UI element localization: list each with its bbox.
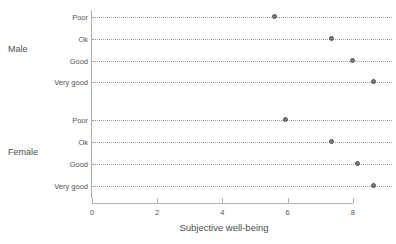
data-point (371, 79, 376, 84)
x-tick-label: 4 (220, 208, 224, 217)
x-tick-mark (157, 198, 158, 203)
x-tick-mark (288, 198, 289, 203)
x-axis-title: Subjective well-being (179, 222, 268, 233)
row-gridline (92, 61, 392, 62)
panel-label-female: Female (8, 147, 66, 157)
data-point (329, 36, 334, 41)
row-gridline (92, 82, 392, 83)
row-gridline (92, 142, 392, 143)
x-tick-label: 2 (155, 208, 159, 217)
data-point (371, 183, 376, 188)
data-point (350, 58, 355, 63)
y-axis-tick-labels: PoorOkGoodVery goodPoorOkGoodVery good (0, 0, 88, 198)
y-tick-label: Ok (78, 35, 88, 44)
y-tick-label: Poor (72, 116, 88, 125)
data-point (329, 139, 334, 144)
x-tick-mark (222, 198, 223, 203)
x-tick-label: 8 (351, 208, 355, 217)
row-gridline (92, 39, 392, 40)
x-tick-mark (353, 198, 354, 203)
row-gridline (92, 164, 392, 165)
data-point (283, 117, 288, 122)
plot-area (92, 0, 392, 198)
x-tick-mark (92, 198, 93, 203)
row-gridline (92, 120, 392, 121)
data-point (272, 14, 277, 19)
y-tick-label: Very good (54, 78, 88, 87)
x-tick-label: 6 (286, 208, 290, 217)
dot-plot-chart: PoorOkGoodVery goodPoorOkGoodVery good M… (0, 0, 396, 244)
y-tick-label: Poor (72, 13, 88, 22)
x-axis-title-wrap: Subjective well-being (0, 222, 396, 233)
data-point (355, 161, 360, 166)
y-tick-label: Ok (78, 138, 88, 147)
x-tick-label: 0 (90, 208, 94, 217)
row-gridline (92, 186, 392, 187)
y-tick-label: Good (70, 57, 88, 66)
x-axis-line (92, 203, 353, 204)
y-tick-label: Good (70, 160, 88, 169)
y-tick-label: Very good (54, 182, 88, 191)
panel-label-male: Male (8, 44, 66, 54)
row-gridline (92, 17, 392, 18)
